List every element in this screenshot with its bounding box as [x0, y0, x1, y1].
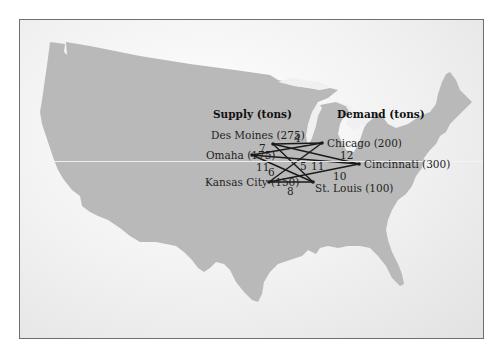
cost-label: 11	[311, 161, 324, 172]
cost-label: 5	[300, 161, 307, 172]
node-cincinnati	[357, 162, 361, 166]
supply-header: Supply (tons)	[213, 109, 292, 120]
supply-label-kansas-city: Kansas City (150)	[205, 177, 299, 188]
node-des-moines	[271, 142, 275, 146]
map-frame: Supply (tons) Demand (tons) Des Moines (…	[19, 19, 484, 339]
cost-label: 6	[268, 167, 275, 178]
cost-label: 10	[333, 171, 346, 182]
demand-label-chicago: Chicago (200)	[327, 138, 402, 149]
node-chicago	[320, 141, 324, 145]
supply-label-des-moines: Des Moines (275)	[211, 130, 305, 141]
demand-label-st-louis: St. Louis (100)	[315, 183, 393, 194]
demand-header: Demand (tons)	[337, 109, 425, 120]
cost-label: 7	[259, 143, 266, 154]
demand-label-cincinnati: Cincinnati (300)	[364, 159, 450, 170]
cost-label: 12	[340, 150, 353, 161]
cost-label: 8	[287, 186, 294, 197]
cost-label: 4	[294, 133, 301, 144]
